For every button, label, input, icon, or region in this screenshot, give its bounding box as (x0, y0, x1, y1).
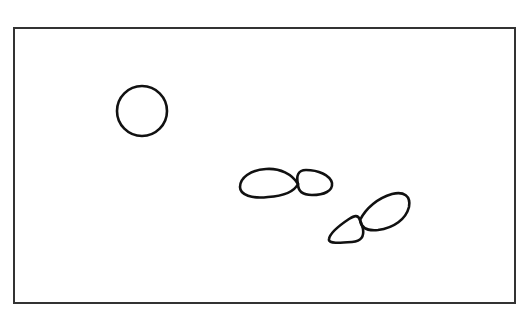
footprint-1-small-oval (297, 170, 332, 195)
footprint-1-large-oval (240, 169, 298, 198)
line-drawing (0, 0, 528, 320)
footprint-2-toe (329, 216, 363, 243)
drawing-canvas (0, 0, 528, 320)
footprint-2-large-oval (360, 193, 409, 230)
frame (14, 28, 515, 303)
footprint-2 (329, 193, 409, 243)
footprint-1 (240, 169, 332, 198)
circle-shape (117, 86, 167, 136)
